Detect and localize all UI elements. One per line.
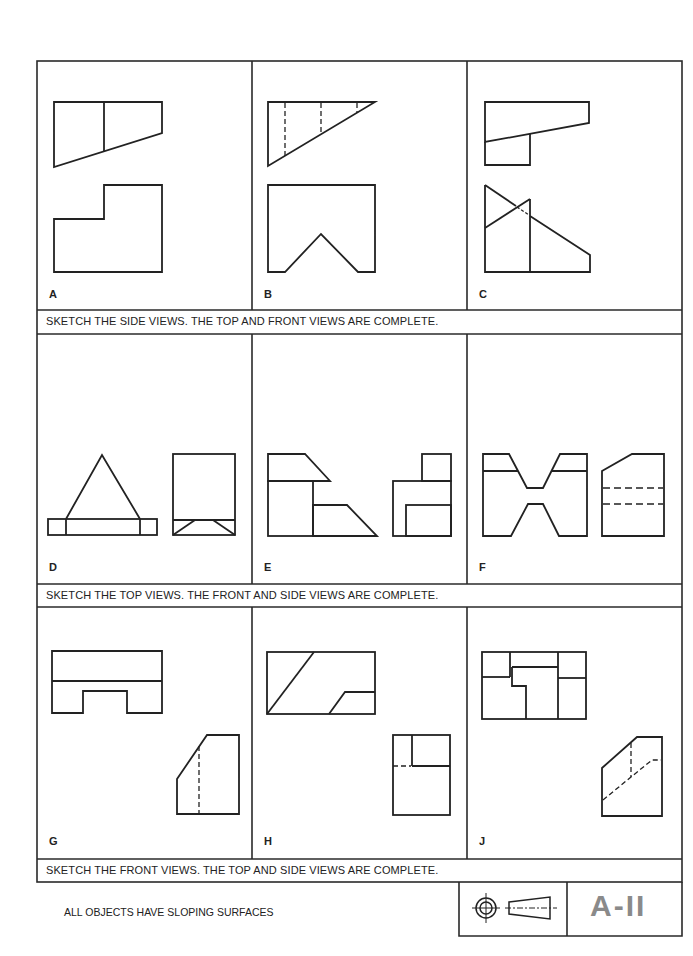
projection-symbol-icon [472,893,557,923]
instruction-row-2: SKETCH THE TOP VIEWS. THE FRONT AND SIDE… [46,589,438,601]
panel-label-a: A [49,288,57,300]
instruction-row-1: SKETCH THE SIDE VIEWS. THE TOP AND FRONT… [46,315,438,327]
panel-label-j: J [479,835,485,847]
panel-c-drawing [485,102,590,272]
panel-d-drawing [48,454,235,535]
worksheet-grid [0,0,693,956]
panel-a-drawing [54,102,162,272]
panel-f-drawing [483,454,664,536]
panel-label-g: G [49,835,58,847]
panel-h-drawing [267,652,450,815]
panel-j-drawing [482,652,662,816]
sheet-number: A-II [590,889,646,923]
instruction-row-3: SKETCH THE FRONT VIEWS. THE TOP AND SIDE… [46,864,438,876]
panel-label-h: H [264,835,272,847]
panel-label-d: D [49,561,57,573]
panel-label-f: F [479,561,486,573]
panel-label-b: B [264,288,272,300]
panel-g-drawing [52,651,239,814]
panel-label-e: E [264,561,271,573]
panel-e-drawing [268,454,451,536]
footnote: ALL OBJECTS HAVE SLOPING SURFACES [64,906,273,918]
panel-label-c: C [479,288,487,300]
worksheet: A B C D E F G H J SKETCH THE SIDE VIEWS.… [0,0,693,956]
